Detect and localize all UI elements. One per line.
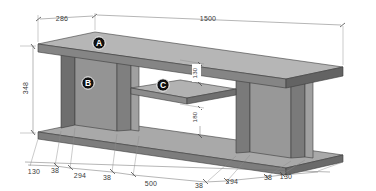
dim-label-overall-length: 1500	[200, 15, 216, 22]
callout-label-c: C	[160, 80, 166, 90]
callout-marker-a[interactable]: A	[93, 37, 105, 49]
dim-label-right-bay-width: 294	[226, 178, 238, 185]
dim-label-upper-compartment-height: 130	[191, 67, 198, 78]
right-side-panel	[291, 79, 313, 158]
dim-label-overall-height: 348	[22, 82, 29, 94]
dim-label-divider-1-thickness: 38	[103, 174, 111, 181]
callout-label-a: A	[96, 38, 102, 48]
dim-label-base-right-overhang: 130	[280, 173, 292, 180]
dim-label-left-panel-thickness: 38	[51, 167, 59, 174]
dim-label-left-bay-width: 294	[74, 172, 86, 179]
technical-drawing-canvas: 286 1500 348 130 180 130 38 294 38 500 3…	[0, 0, 376, 191]
callout-marker-b[interactable]: B	[82, 77, 94, 89]
dim-label-base-left-overhang: 130	[28, 168, 40, 175]
dim-label-divider-2-thickness: 38	[195, 182, 203, 189]
furniture-model	[38, 32, 343, 175]
callout-label-b: B	[85, 78, 91, 88]
callout-marker-c[interactable]: C	[157, 79, 169, 91]
dim-label-center-bay-width: 500	[145, 180, 157, 187]
isometric-furniture-drawing: 286 1500 348 130 180 130 38 294 38 500 3…	[0, 0, 376, 191]
dim-label-lower-compartment-height: 180	[191, 111, 198, 122]
dim-label-top-offset: 286	[56, 15, 68, 22]
dim-label-right-panel-thickness: 38	[264, 174, 272, 181]
